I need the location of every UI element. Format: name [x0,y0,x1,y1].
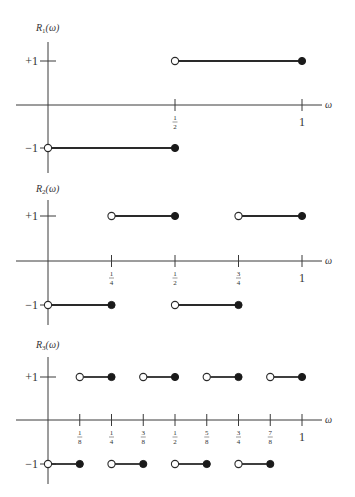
closed-endpoint-icon [267,460,274,467]
x-tick-fraction: 12 [173,114,178,131]
y-tick-label: +1 [25,370,38,384]
step-segment [76,373,115,380]
open-endpoint-icon [171,301,178,308]
x-tick-label: 1 [299,115,305,129]
x-tick-label: 1 [299,430,305,444]
y-tick-label: +1 [25,54,38,68]
x-tick-fraction: 38 [141,429,146,446]
open-endpoint-icon [267,373,274,380]
open-endpoint-icon [44,301,51,308]
fraction-numerator: 1 [78,429,82,437]
open-endpoint-icon [140,373,147,380]
closed-endpoint-icon [108,301,115,308]
x-tick-fraction: 12 [173,270,178,287]
fraction-denominator: 4 [110,279,114,287]
closed-endpoint-icon [203,460,210,467]
fraction-denominator: 4 [237,279,241,287]
closed-endpoint-icon [298,57,305,64]
title-arg: (ω) [46,22,60,34]
y-tick-label: −1 [25,298,38,312]
closed-endpoint-icon [235,373,242,380]
step-segment [44,460,83,467]
y-tick-label: −1 [25,457,38,471]
fraction-denominator: 8 [269,438,273,446]
fraction-denominator: 2 [173,438,177,446]
open-endpoint-icon [171,57,178,64]
fraction-denominator: 8 [78,438,82,446]
fraction-numerator: 1 [173,270,177,278]
closed-endpoint-icon [108,373,115,380]
step-segment [44,144,178,151]
title-arg: (ω) [46,183,60,195]
step-segment [171,460,210,467]
fraction-numerator: 1 [110,270,114,278]
x-tick-label: 1 [299,271,305,285]
y-tick-label: +1 [25,209,38,223]
fraction-denominator: 8 [142,438,146,446]
x-tick-fraction: 18 [77,429,82,446]
x-tick-fraction: 78 [268,429,273,446]
fraction-numerator: 1 [173,429,177,437]
x-tick-fraction: 14 [109,429,114,446]
step-segment [235,212,306,219]
step-segment [171,57,305,64]
title-arg: (ω) [46,339,60,351]
closed-endpoint-icon [171,144,178,151]
fraction-denominator: 2 [173,123,177,131]
fraction-numerator: 7 [269,429,273,437]
closed-endpoint-icon [171,212,178,219]
fraction-numerator: 3 [237,270,241,278]
fraction-denominator: 8 [205,438,209,446]
title-base: R [35,183,42,194]
step-segment [44,301,115,308]
open-endpoint-icon [235,460,242,467]
step-segment [203,373,242,380]
panel-title: R1(ω) [35,22,60,35]
x-tick-fraction: 14 [109,270,114,287]
closed-endpoint-icon [298,373,305,380]
open-endpoint-icon [108,212,115,219]
closed-endpoint-icon [140,460,147,467]
open-endpoint-icon [44,144,51,151]
x-axis-label: ω [325,99,332,110]
fraction-denominator: 4 [110,438,114,446]
closed-endpoint-icon [298,212,305,219]
fraction-numerator: 1 [110,429,114,437]
open-endpoint-icon [44,460,51,467]
rademacher-functions-figure: R1(ω)ω+1−1121R2(ω)ω+1−11412341R3(ω)ω+1−1… [0,0,355,497]
closed-endpoint-icon [235,301,242,308]
step-segment [267,373,306,380]
panel-title: R3(ω) [35,339,60,352]
step-segment [108,460,147,467]
open-endpoint-icon [108,460,115,467]
open-endpoint-icon [171,460,178,467]
chart-panel-r2: R2(ω)ω+1−11412341 [16,183,332,325]
x-axis-label: ω [325,414,332,425]
fraction-numerator: 3 [237,429,241,437]
chart-panel-r3: R3(ω)ω+1−1181438125834781 [16,339,332,484]
open-endpoint-icon [203,373,210,380]
panel-title: R2(ω) [35,183,60,196]
fraction-denominator: 2 [173,279,177,287]
open-endpoint-icon [235,212,242,219]
chart-panel-r1: R1(ω)ω+1−1121 [16,22,332,173]
fraction-numerator: 1 [173,114,177,122]
fraction-denominator: 4 [237,438,241,446]
step-segment [171,301,242,308]
x-tick-fraction: 58 [204,429,209,446]
y-tick-label: −1 [25,141,38,155]
title-base: R [35,22,42,33]
fraction-numerator: 3 [142,429,146,437]
x-tick-fraction: 12 [173,429,178,446]
open-endpoint-icon [76,373,83,380]
x-axis-label: ω [325,255,332,266]
title-base: R [35,339,42,350]
step-segment [140,373,179,380]
step-segment [235,460,274,467]
x-tick-fraction: 34 [236,270,241,287]
closed-endpoint-icon [171,373,178,380]
fraction-numerator: 5 [205,429,209,437]
x-tick-fraction: 34 [236,429,241,446]
step-segment [108,212,179,219]
closed-endpoint-icon [76,460,83,467]
